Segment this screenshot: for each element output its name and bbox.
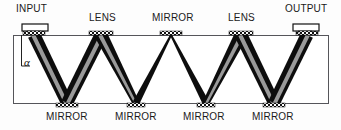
label-mirror-2: MIRROR [115, 112, 157, 122]
mirror-1-mirror-pad [56, 103, 78, 107]
output-prism-coupling-gap [298, 31, 313, 35]
input-prism [22, 24, 48, 31]
lens-left-lens-pad [89, 31, 113, 35]
alpha-angle-label: α [24, 57, 30, 68]
mirror-top-mirror-pad [160, 31, 182, 35]
lens-right-lens-pad [229, 31, 253, 35]
input-prism-coupling-gap [27, 31, 42, 35]
label-mirror-3: MIRROR [183, 112, 225, 122]
label-lens-right: LENS [228, 13, 255, 23]
label-output: OUTPUT [285, 4, 327, 14]
output-prism [293, 24, 319, 31]
label-input: INPUT [16, 4, 47, 14]
label-lens-left: LENS [89, 13, 116, 23]
label-mirror-top: MIRROR [152, 13, 194, 23]
mirror-4-mirror-pad [263, 103, 285, 107]
mirror-3-mirror-pad [197, 103, 215, 107]
label-mirror-1: MIRROR [46, 112, 88, 122]
mirror-2-mirror-pad [127, 103, 145, 107]
figure-canvas: INPUTLENSMIRRORLENSOUTPUTMIRRORMIRRORMIR… [0, 0, 341, 130]
label-mirror-4: MIRROR [252, 112, 294, 122]
